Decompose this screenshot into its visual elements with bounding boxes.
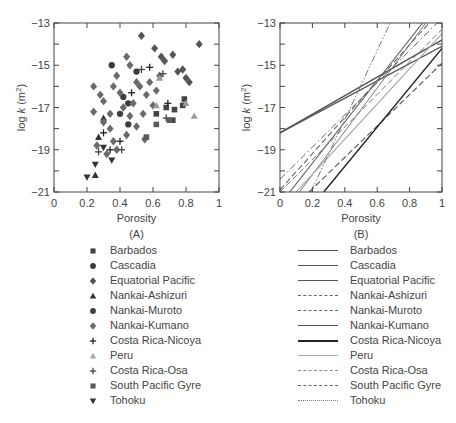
plus-marker-icon bbox=[84, 365, 102, 377]
x-tick-label: 0.4 bbox=[337, 197, 352, 209]
legend-item: Cascadia bbox=[84, 258, 201, 273]
data-point bbox=[107, 110, 114, 118]
data-point bbox=[126, 112, 133, 120]
data-point bbox=[128, 89, 135, 96]
data-point bbox=[138, 31, 145, 39]
triangle-up-light-marker-icon bbox=[84, 350, 102, 362]
data-point bbox=[93, 141, 100, 149]
legend-label: Nankai-Muroto bbox=[110, 303, 182, 318]
data-point bbox=[146, 64, 153, 71]
x-tick-label: 0.6 bbox=[145, 197, 160, 209]
legend-item: Costa Rica-Osa bbox=[298, 363, 441, 378]
legend-label: Costa Rica-Osa bbox=[110, 363, 188, 378]
legend-label: Nankai-Kumano bbox=[350, 318, 429, 333]
data-point bbox=[107, 124, 114, 132]
legend-label: Nankai-Kumano bbox=[110, 318, 189, 333]
legend-item: Peru bbox=[84, 348, 201, 363]
panel-b-frame bbox=[280, 23, 442, 192]
data-point bbox=[100, 129, 107, 136]
panel-b-ylabel: log k (m2) bbox=[239, 84, 252, 131]
legend-label: South Pacific Gyre bbox=[350, 378, 441, 393]
panel-a-label: (A) bbox=[129, 228, 144, 240]
legend-label: Nankai-Ashizuri bbox=[350, 288, 427, 303]
legend-item: Nankai-Ashizuri bbox=[84, 288, 201, 303]
legend-label: Equatorial Pacific bbox=[110, 273, 195, 288]
fit-line bbox=[324, 48, 442, 192]
x-tick-label: 0.8 bbox=[178, 197, 193, 209]
panel-a-frame bbox=[54, 23, 219, 192]
legend-label: Tohoku bbox=[110, 393, 145, 408]
data-point bbox=[146, 78, 153, 86]
legend-item: South Pacific Gyre bbox=[84, 378, 201, 393]
legend-item: Costa Rica-Nicoya bbox=[84, 333, 201, 348]
legend-label: Nankai-Ashizuri bbox=[110, 288, 187, 303]
data-point bbox=[95, 148, 102, 155]
legend-label: Equatorial Pacific bbox=[350, 273, 435, 288]
data-point bbox=[154, 111, 160, 117]
data-point bbox=[95, 134, 102, 140]
legend-item: Tohoku bbox=[298, 393, 441, 408]
dashdot-line-icon bbox=[298, 370, 338, 371]
panel-b-label: (B) bbox=[354, 228, 369, 240]
legend-item: Barbados bbox=[84, 243, 201, 258]
fit-lines bbox=[280, 23, 442, 192]
legend-item: Costa Rica-Osa bbox=[84, 363, 201, 378]
legend-item: Tohoku bbox=[84, 393, 201, 408]
legend-label: Peru bbox=[350, 348, 373, 363]
panel-a-ylabel: log k (m2) bbox=[14, 84, 27, 131]
y-tick-label: −17 bbox=[257, 102, 276, 114]
dashed-line-icon bbox=[298, 385, 338, 386]
data-point bbox=[167, 117, 173, 123]
legend-label: Nankai-Muroto bbox=[350, 303, 422, 318]
x-tick-label: 1 bbox=[216, 197, 222, 209]
legend-item: Equatorial Pacific bbox=[298, 273, 441, 288]
solid-light-line-icon bbox=[298, 355, 338, 356]
fit-line bbox=[311, 23, 390, 192]
fit-line bbox=[280, 40, 442, 133]
circle-marker-icon bbox=[84, 305, 102, 317]
y-tick-label: −13 bbox=[257, 17, 276, 29]
legend-label: Barbados bbox=[350, 243, 397, 258]
data-point bbox=[172, 107, 178, 113]
data-point bbox=[108, 158, 115, 164]
data-point bbox=[97, 91, 104, 99]
x-tick-label: 0.2 bbox=[79, 197, 94, 209]
solid-line-icon bbox=[298, 250, 338, 251]
data-point bbox=[92, 172, 99, 178]
data-point bbox=[143, 91, 150, 99]
data-point bbox=[100, 97, 107, 105]
x-tick-label: 1 bbox=[439, 197, 445, 209]
legend-item: Nankai-Kumano bbox=[84, 318, 201, 333]
dashdotdot-line-icon bbox=[298, 400, 338, 401]
panel-a-ticks: 00.20.40.60.81−13−15−17−19−21 bbox=[31, 17, 222, 209]
y-tick-label: −19 bbox=[257, 144, 276, 156]
legend-label: Costa Rica-Osa bbox=[350, 363, 428, 378]
data-point bbox=[117, 111, 123, 117]
data-point bbox=[126, 61, 133, 69]
scatter-points bbox=[84, 31, 203, 180]
data-point bbox=[90, 108, 97, 116]
solid-line-icon bbox=[298, 280, 338, 281]
legend-label: Cascadia bbox=[110, 258, 156, 273]
y-tick-label: −21 bbox=[31, 186, 50, 198]
data-point bbox=[144, 134, 150, 140]
data-point bbox=[113, 72, 120, 80]
x-tick-label: 0.8 bbox=[402, 197, 417, 209]
diamond-marker-icon bbox=[84, 320, 102, 332]
panel-a: 00.20.40.60.81−13−15−17−19−21 Porosity (… bbox=[14, 17, 222, 240]
legend-label: Cascadia bbox=[350, 258, 396, 273]
data-point bbox=[130, 99, 137, 107]
legend-item: Peru bbox=[298, 348, 441, 363]
data-point bbox=[191, 112, 198, 118]
y-tick-label: −13 bbox=[31, 17, 50, 29]
data-point bbox=[100, 145, 107, 151]
legend-item: Equatorial Pacific bbox=[84, 273, 201, 288]
legend-item: South Pacific Gyre bbox=[298, 378, 441, 393]
y-tick-label: −19 bbox=[31, 144, 50, 156]
triangle-down-marker-icon bbox=[84, 395, 102, 407]
data-point bbox=[169, 50, 176, 58]
y-tick-label: −17 bbox=[31, 102, 50, 114]
legend-item: Nankai-Kumano bbox=[298, 318, 441, 333]
fit-line bbox=[299, 23, 425, 192]
legend-item: Nankai-Ashizuri bbox=[298, 288, 441, 303]
